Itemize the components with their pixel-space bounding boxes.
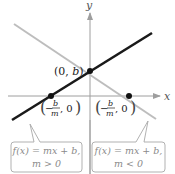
x-intercept-right-label: ( − b m , 0 ) <box>95 98 136 118</box>
y-intercept-dot <box>87 68 93 74</box>
callout-decreasing: f(x) = mx + b, m < 0 <box>92 121 165 172</box>
callout-decreasing-line2: m < 0 <box>114 158 143 169</box>
x-intercept-left-label: ( − b m , 0 ) <box>40 98 81 118</box>
y-intercept-label: (0, b) <box>54 65 84 78</box>
callout-increasing-line1: f(x) = mx + b, <box>12 145 81 156</box>
y-axis-label: y <box>85 0 93 12</box>
linear-function-diagram: x y (0, b) ( − b m , 0 ) ( − b m , 0 ) f… <box>0 0 175 174</box>
callout-decreasing-line1: f(x) = mx + b, <box>94 145 163 156</box>
svg-text:, 0: , 0 <box>60 103 73 114</box>
callout-increasing: f(x) = mx + b, m > 0 <box>11 124 82 172</box>
svg-text:, 0: , 0 <box>115 103 128 114</box>
x-axis-label: x <box>164 90 171 103</box>
svg-text:m: m <box>106 109 114 118</box>
svg-text:b: b <box>53 99 58 108</box>
svg-text:m: m <box>51 109 59 118</box>
callout-increasing-line2: m > 0 <box>32 158 61 169</box>
svg-text:b: b <box>108 99 113 108</box>
svg-text:): ) <box>130 98 136 117</box>
svg-text:): ) <box>75 98 81 117</box>
